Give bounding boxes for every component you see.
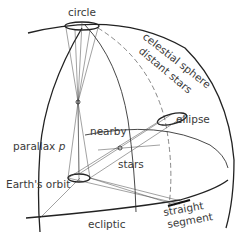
label-stars: stars bbox=[118, 158, 144, 170]
label-earths-orbit: Earth's orbit bbox=[6, 178, 70, 190]
label-parallax: parallax p bbox=[13, 140, 66, 152]
parallax-diagram: circle celestial sphere distant stars el… bbox=[0, 0, 239, 239]
label-nearby: nearby bbox=[90, 125, 127, 137]
label-circle: circle bbox=[68, 6, 96, 18]
label-ellipse: ellipse bbox=[176, 113, 210, 125]
label-ecliptic: ecliptic bbox=[88, 218, 126, 230]
left-meridian bbox=[39, 28, 83, 232]
